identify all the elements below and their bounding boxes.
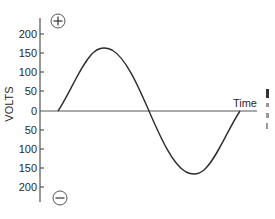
tick-label: 150 [19,47,37,59]
y-axis-title: VOLTS [3,86,15,121]
tick-label: 100 [19,66,37,78]
tick-label: 0 [31,105,37,117]
cropped-text-fragment [266,123,268,129]
tick-label: 100 [19,143,37,155]
tick-label: 150 [19,162,37,174]
tick-label: 50 [25,124,37,136]
tick-label: 200 [19,28,37,40]
minus-circle-icon [53,191,67,205]
tick-label: 50 [25,85,37,97]
plus-circle-icon [51,14,65,28]
x-axis-title: Time [233,97,257,109]
cropped-text-fragment [266,89,269,98]
cropped-text-fragment [266,113,269,118]
tick-label: 200 [19,181,37,193]
y-tick-labels: 200 150 100 50 0 50 100 150 200 [19,28,37,193]
ac-voltage-sine-chart: 200 150 100 50 0 50 100 150 200 VOLTS Ti… [0,0,275,219]
cropped-text-fragment [266,103,269,107]
